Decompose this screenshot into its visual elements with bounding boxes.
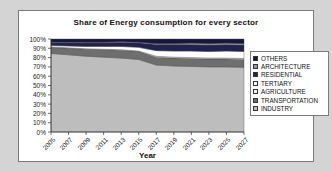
legend-label: TERTIARY <box>261 80 292 87</box>
legend-label: RESIDENTIAL <box>261 71 302 78</box>
legend-label: INDUSTRY <box>261 105 293 112</box>
y-tick-label: 80% <box>19 54 46 61</box>
legend-swatch-icon <box>253 81 258 86</box>
y-tick-label: 30% <box>19 101 46 108</box>
x-tick-label: 2017 <box>146 136 161 151</box>
legend-item-tertiary: TERTIARY <box>253 79 326 87</box>
y-tick-label: 60% <box>19 73 46 80</box>
legend-label: TRANSPORTATION <box>261 97 318 104</box>
chart-frame: Share of Energy consumption for every se… <box>18 10 314 162</box>
x-tick-label: 2009 <box>76 136 91 151</box>
legend-item-architecture: ARCHITECTURE <box>253 62 326 70</box>
y-axis: 100%90%80%70%60%50%40%30%20%10%0% <box>19 39 49 132</box>
legend-item-residential: RESIDENTIAL <box>253 71 326 79</box>
legend-item-others: OTHERS <box>253 54 326 62</box>
x-tick-label: 2023 <box>199 136 214 151</box>
x-tick-label: 2011 <box>94 136 109 151</box>
legend-label: ARCHITECTURE <box>261 63 310 70</box>
y-tick-label: 90% <box>19 45 46 52</box>
legend-swatch-icon <box>253 72 258 77</box>
x-tick-label: 2021 <box>181 136 196 151</box>
x-tick-label: 2025 <box>216 136 231 151</box>
legend-label: OTHERS <box>261 55 287 62</box>
y-tick-label: 10% <box>19 119 46 126</box>
x-tick-label: 2013 <box>111 136 126 151</box>
legend-item-transportation: TRANSPORTATION <box>253 96 326 104</box>
legend-box: OTHERSARCHITECTURERESIDENTIALTERTIARYAGR… <box>250 51 329 116</box>
stacked-area-plot <box>47 39 244 136</box>
legend-swatch-icon <box>253 56 258 61</box>
chart-title: Share of Energy consumption for every se… <box>19 18 313 27</box>
x-axis-title: Year <box>51 151 244 160</box>
x-tick-label: 2007 <box>58 136 73 151</box>
legend-swatch-icon <box>253 89 258 94</box>
y-tick-label: 40% <box>19 91 46 98</box>
x-tick-label: 2019 <box>164 136 179 151</box>
y-tick-label: 100% <box>19 36 46 43</box>
legend-item-industry: INDUSTRY <box>253 104 326 112</box>
x-tick-label: 2027 <box>234 136 249 151</box>
y-tick-label: 50% <box>19 82 46 89</box>
y-tick-label: 20% <box>19 110 46 117</box>
legend-swatch-icon <box>253 98 258 103</box>
legend-swatch-icon <box>253 106 258 111</box>
legend-label: AGRICULTURE <box>261 88 306 95</box>
x-tick-label: 2005 <box>41 136 56 151</box>
y-tick-label: 70% <box>19 63 46 70</box>
x-tick-label: 2015 <box>129 136 144 151</box>
legend-swatch-icon <box>253 64 258 69</box>
legend-item-agriculture: AGRICULTURE <box>253 88 326 96</box>
